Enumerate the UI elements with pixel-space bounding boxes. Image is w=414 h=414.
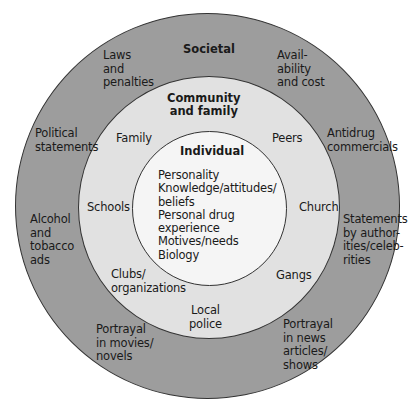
societal-item-portrayal-movies: Portrayal in movies/ novels [96,323,153,364]
societal-item-availability-cost: Avail- ability and cost [277,49,325,90]
societal-item-political-statements: Political statements [35,127,98,154]
societal-title: Societal [183,43,235,56]
individual-factors-list: Personality Knowledge/attitudes/ beliefs… [158,169,276,262]
community-item-schools: Schools [87,201,130,215]
societal-item-alcohol-tobacco-ads: Alcohol and tobacco ads [30,213,74,267]
community-item-church: Church [299,201,339,215]
community-item-family: Family [116,132,152,146]
community-item-local-police: Local police [189,304,222,331]
societal-item-antidrug-commercials: Antidrug commercials [327,127,398,154]
societal-item-portrayal-news: Portrayal in news articles/ shows [283,318,333,372]
community-item-clubs-organizations: Clubs/ organizations [111,268,186,295]
societal-item-laws-penalties: Laws and penalties [103,49,154,90]
community-item-gangs: Gangs [276,269,312,283]
individual-title: Individual [180,145,244,158]
societal-item-statements-authorities: Statements by author- ities/celeb- ritie… [343,213,408,267]
community-family-title: Community and family [167,92,241,118]
community-item-peers: Peers [272,132,302,146]
